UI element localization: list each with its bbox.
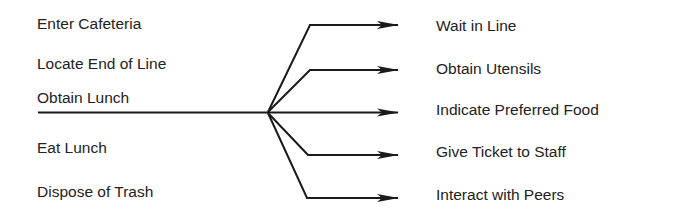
branch-arrow-1 [268,25,398,112]
substep-indicate-preferred-food: Indicate Preferred Food [436,101,599,119]
substep-give-ticket-to-staff: Give Ticket to Staff [436,143,566,161]
substep-wait-in-line: Wait in Line [436,17,516,35]
branch-arrow-4 [268,113,398,155]
left-step-eat-lunch: Eat Lunch [37,139,107,157]
left-step-locate-end-of-line: Locate End of Line [37,55,166,73]
substep-interact-with-peers: Interact with Peers [436,186,564,204]
left-step-enter-cafeteria: Enter Cafeteria [37,15,141,33]
left-step-obtain-lunch: Obtain Lunch [37,89,129,107]
left-step-dispose-of-trash: Dispose of Trash [37,183,153,201]
substep-obtain-utensils: Obtain Utensils [436,60,541,78]
branch-arrow-2 [268,70,398,112]
